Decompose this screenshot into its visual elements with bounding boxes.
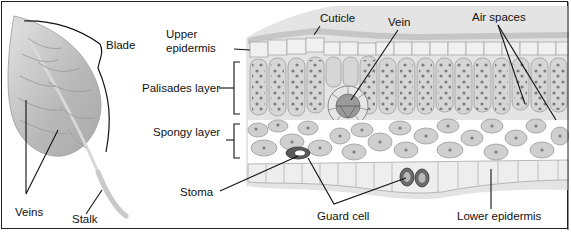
diagram-artwork [2, 2, 569, 230]
label-upper-epidermis-line2: epidermis [166, 42, 216, 55]
label-stoma: Stoma [180, 186, 213, 199]
label-vein: Vein [388, 16, 410, 29]
label-veins: Veins [15, 206, 43, 219]
label-blade: Blade [106, 39, 135, 52]
label-air-spaces: Air spaces [472, 11, 526, 24]
leaf-diagram: Blade Veins Stalk Cuticle Vein Air space… [1, 1, 568, 229]
stalk-leader [86, 190, 102, 214]
label-stalk: Stalk [72, 213, 98, 226]
label-lower-epidermis: Lower epidermis [457, 210, 541, 223]
cross-section-illustration [246, 2, 569, 230]
label-upper-epidermis-line1: Upper [166, 28, 197, 41]
label-palisades-layer: Palisades layer [142, 82, 220, 95]
palisade-cells [250, 56, 567, 116]
label-guard-cell: Guard cell [317, 210, 369, 223]
label-spongy-layer: Spongy layer [153, 126, 220, 139]
label-cuticle: Cuticle [320, 12, 355, 25]
